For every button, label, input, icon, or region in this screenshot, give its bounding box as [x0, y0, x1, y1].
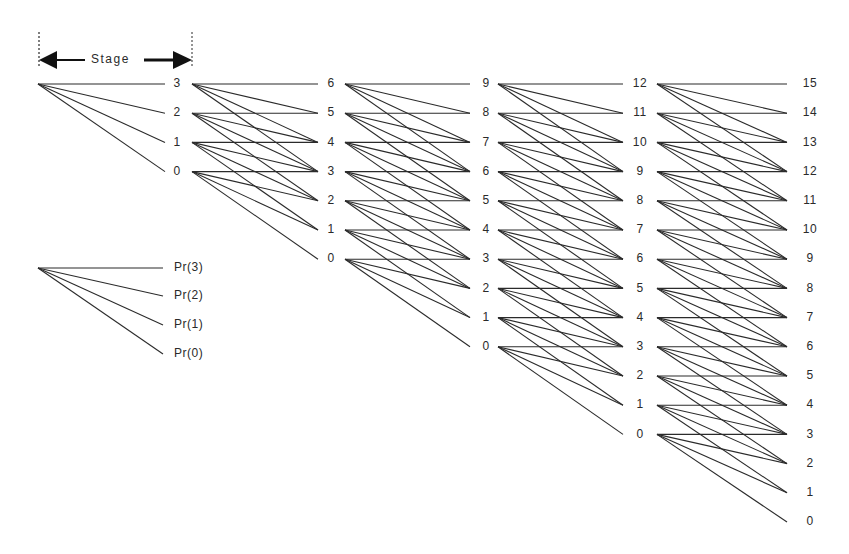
lattice-edge — [657, 172, 787, 201]
lattice-edge — [498, 84, 623, 113]
lattice-edge — [498, 347, 623, 405]
legend-label: Pr(1) — [174, 317, 203, 331]
node-label: 6 — [806, 339, 813, 353]
lattice-edge — [498, 172, 623, 201]
lattice-edge — [345, 259, 470, 288]
node-label: 11 — [803, 193, 816, 207]
lattice-edge — [657, 201, 787, 230]
lattice-edge — [498, 347, 623, 435]
lattice-edge — [345, 113, 470, 142]
node-label: 7 — [806, 310, 813, 324]
lattice-edge — [38, 84, 165, 142]
lattice-edge — [192, 142, 318, 171]
node-label: 0 — [806, 514, 813, 528]
node-label: 6 — [636, 251, 643, 265]
lattice-edge — [345, 259, 470, 347]
node-label: 5 — [482, 193, 489, 207]
lattice-edge — [498, 347, 623, 376]
node-label: 4 — [327, 135, 334, 149]
node-label: 10 — [633, 135, 647, 149]
lattice-edge — [657, 434, 787, 463]
lattice-edge — [192, 172, 318, 260]
lattice-edge — [192, 84, 318, 113]
lattice-edge — [498, 288, 623, 317]
lattice-edge — [498, 259, 623, 288]
node-label: 4 — [806, 397, 813, 411]
node-label: 7 — [636, 222, 643, 236]
node-label: 12 — [633, 76, 647, 90]
lattice-edge — [498, 142, 623, 171]
lattice-edge — [498, 201, 623, 230]
node-label: 0 — [636, 427, 643, 441]
legend-branch — [38, 268, 163, 296]
node-label: 0 — [327, 251, 334, 265]
node-label: 1 — [636, 397, 643, 411]
lattice-edge — [657, 405, 787, 434]
lattice-edge — [192, 172, 318, 230]
node-label: 3 — [173, 76, 180, 90]
node-label: 2 — [173, 105, 180, 119]
node-label: 4 — [482, 222, 489, 236]
lattice-edge — [345, 84, 470, 113]
lattice-edge — [345, 259, 470, 317]
lattice-edge — [657, 434, 787, 522]
lattice-diagram: Stage 3210654321098765432101211109876543… — [0, 0, 849, 554]
stage-marker: Stage — [39, 32, 192, 69]
node-label: 5 — [636, 281, 643, 295]
lattice-edge — [345, 142, 470, 171]
node-label: 9 — [482, 76, 489, 90]
lattice-edge — [657, 288, 787, 317]
node-label: 3 — [636, 339, 643, 353]
probability-legend: Pr(3)Pr(2)Pr(1)Pr(0) — [38, 260, 203, 360]
stage-label: Stage — [91, 52, 130, 66]
lattice-edge — [657, 376, 787, 405]
lattice-edges — [38, 84, 787, 522]
lattice-edge — [657, 318, 787, 347]
lattice-edge — [38, 84, 165, 113]
node-label: 5 — [806, 368, 813, 382]
lattice-edge — [192, 172, 318, 201]
left-arrow-icon — [39, 51, 57, 69]
lattice-edge — [657, 142, 787, 171]
node-label: 3 — [482, 251, 489, 265]
node-label: 7 — [482, 135, 489, 149]
legend-label: Pr(2) — [174, 288, 203, 302]
lattice-edge — [345, 201, 470, 230]
node-label: 14 — [803, 105, 817, 119]
node-label: 2 — [327, 193, 334, 207]
lattice-edge — [38, 84, 165, 172]
node-label: 4 — [636, 310, 643, 324]
lattice-edge — [657, 259, 787, 288]
node-label: 1 — [173, 135, 180, 149]
node-label: 2 — [636, 368, 643, 382]
lattice-edge — [498, 318, 623, 347]
lattice-edge — [345, 230, 470, 259]
node-label: 3 — [327, 164, 334, 178]
node-label: 12 — [803, 164, 817, 178]
legend-label: Pr(0) — [174, 346, 203, 360]
node-label: 8 — [636, 193, 643, 207]
lattice-edge — [345, 172, 470, 201]
lattice-edge — [498, 230, 623, 259]
node-label: 11 — [633, 105, 646, 119]
node-label: 6 — [482, 164, 489, 178]
node-label: 8 — [482, 105, 489, 119]
node-label: 9 — [806, 251, 813, 265]
node-label: 15 — [803, 76, 817, 90]
right-arrow-icon — [173, 51, 192, 69]
node-label: 10 — [803, 222, 817, 236]
lattice-edge — [192, 113, 318, 142]
legend-branch — [38, 268, 163, 354]
lattice-edge — [498, 113, 623, 142]
lattice-edge — [657, 113, 787, 142]
lattice-edge — [657, 347, 787, 376]
node-label: 1 — [327, 222, 334, 236]
legend-label: Pr(3) — [174, 260, 203, 274]
node-label: 1 — [482, 310, 489, 324]
node-label: 2 — [806, 456, 813, 470]
lattice-edge — [657, 434, 787, 492]
node-label: 3 — [806, 427, 813, 441]
node-label: 0 — [482, 339, 489, 353]
node-label: 6 — [327, 76, 334, 90]
node-label: 5 — [327, 105, 334, 119]
